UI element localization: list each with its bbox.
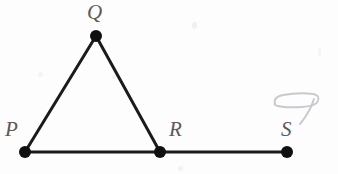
vertex-dot-p (19, 146, 31, 158)
vertex-dot-s (281, 146, 293, 158)
segment-qr (96, 36, 160, 152)
diagram-svg (0, 0, 338, 174)
segment-group (25, 36, 287, 152)
segment-pq (25, 36, 96, 152)
paper-speck (112, 75, 116, 79)
paper-speck (192, 22, 197, 29)
paper-speck (178, 166, 183, 171)
paper-speck (38, 72, 43, 77)
vertex-label-r: R (169, 119, 182, 140)
vertex-label-q: Q (87, 2, 102, 23)
vertex-label-s: S (281, 119, 292, 140)
geometry-figure: P Q R S (0, 0, 338, 174)
vertex-dot-r (154, 146, 166, 158)
paper-speck (318, 48, 321, 57)
scribble-tail-icon (300, 99, 314, 124)
vertex-label-p: P (5, 119, 18, 140)
vertex-dot-q (90, 30, 102, 42)
